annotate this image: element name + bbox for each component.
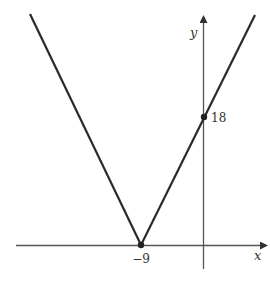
x-axis-label: x (254, 248, 262, 263)
vertex-label: −9 (132, 252, 150, 266)
y-intercept-label: 18 (211, 111, 226, 125)
y-intercept-point (201, 114, 207, 120)
vertex-point (138, 242, 144, 248)
y-axis-label: y (189, 25, 198, 40)
graph-plot: y x −9 18 (0, 0, 270, 289)
graph-left-branch (30, 14, 141, 245)
graph-right-branch (141, 15, 255, 245)
